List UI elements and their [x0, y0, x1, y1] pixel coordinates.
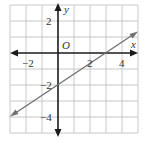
y-tick-neg2: −2 [40, 79, 52, 91]
x-tick-4: 4 [119, 57, 125, 69]
x-axis-right-arrow-icon [130, 50, 138, 57]
x-tick-neg2: −2 [22, 57, 34, 69]
x-tick-2: 2 [87, 57, 93, 69]
y-axis-up-arrow-icon [55, 3, 62, 11]
y-tick-2: 2 [46, 15, 52, 27]
y-tick-neg4: −4 [40, 111, 52, 123]
y-axis-label: y [63, 3, 69, 15]
x-axis-left-arrow-icon [10, 50, 18, 57]
coordinate-plane: y x O 2 −2 −4 −2 2 4 [0, 0, 146, 141]
x-axis-label: x [130, 38, 136, 50]
grid [10, 5, 138, 133]
origin-label: O [62, 39, 70, 51]
line-arrow-bottom-left-icon [10, 110, 19, 117]
